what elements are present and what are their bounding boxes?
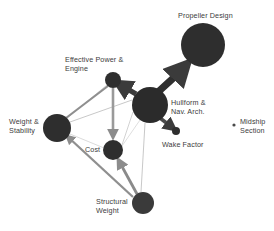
- edge-hullform-to-propeller-design: [158, 66, 185, 92]
- node-wake-factor[interactable]: [172, 127, 180, 135]
- node-cost[interactable]: [103, 140, 123, 160]
- edge-cost-to-hullform-lower: [122, 120, 140, 146]
- edge-structural-weight-to-cost: [119, 161, 137, 194]
- label-weight-stability: Weight & Stability: [9, 117, 39, 135]
- node-weight-stability[interactable]: [43, 114, 71, 142]
- node-midship-section[interactable]: [232, 123, 235, 126]
- edge-hullform-to-weight-stability: [70, 100, 132, 122]
- graph-canvas: [0, 0, 274, 231]
- label-structural-weight: Structural Weight: [96, 197, 128, 215]
- label-hullform-nav-arch: Hullform & Nav. Arch.: [171, 98, 206, 116]
- edge-hullform-to-structural-weight: [141, 123, 145, 192]
- node-effective-power-engine[interactable]: [105, 72, 121, 88]
- edge-effective-power-to-weight-stability: [66, 86, 108, 118]
- nodes: [43, 23, 236, 214]
- label-propeller-design: Propeller Design: [178, 11, 233, 20]
- causal-loop-diagram: Propeller Design Hullform & Nav. Arch. E…: [0, 0, 274, 231]
- edge-hullform-to-wake-factor: [160, 118, 173, 128]
- label-effective-power-engine: Effective Power & Engine: [65, 55, 123, 73]
- edge-hullform-to-effective-power: [119, 84, 136, 94]
- node-structural-weight[interactable]: [132, 192, 154, 214]
- label-cost: Cost: [85, 145, 100, 154]
- edges-medium: [66, 86, 137, 197]
- label-midship-section: Midship Section: [240, 117, 265, 135]
- node-hullform-nav-arch[interactable]: [132, 87, 168, 123]
- node-propeller-design[interactable]: [181, 23, 225, 67]
- edge-hullform-to-cost: [122, 112, 133, 145]
- label-wake-factor: Wake Factor: [162, 140, 204, 149]
